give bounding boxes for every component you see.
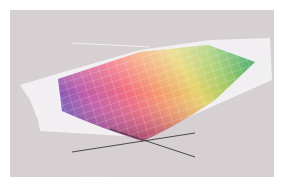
gamut-plot xyxy=(0,0,285,188)
caption: . . . . . xyxy=(80,178,280,188)
outer-gamut-edge-line xyxy=(72,43,150,47)
